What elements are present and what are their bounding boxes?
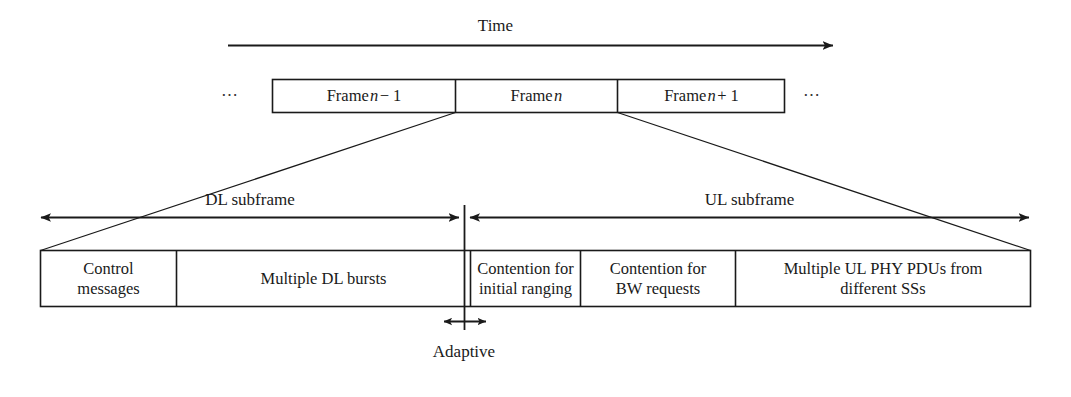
frame-cell-control-messages[interactable]: Control messages [41, 251, 176, 306]
ellipsis-right-icon: ⋯ [803, 84, 822, 105]
frame-cell-contention-bw-requests[interactable]: Contention for BW requests [581, 251, 735, 306]
frame-box-current[interactable]: Framen [456, 79, 618, 113]
frame-cell-control-messages-label: Control messages [77, 259, 139, 298]
time-axis-label: Time [0, 16, 1071, 36]
frame-box-next[interactable]: Framen+ 1 [618, 79, 785, 113]
diagram-canvas [0, 0, 1071, 397]
frame-structure-diagram: Time ⋯ ⋯ Framen− 1 Framen Framen+ 1 DL s… [0, 0, 1071, 397]
frame-cell-contention-initial-ranging[interactable]: Contention for initial ranging [471, 251, 580, 306]
frame-cell-multiple-ul-phy-pdus[interactable]: Multiple UL PHY PDUs from different SSs [736, 251, 1030, 306]
expansion-guide-lines [41, 113, 1031, 251]
ellipsis-left-icon: ⋯ [221, 84, 240, 105]
frame-cell-contention-initial-ranging-label: Contention for initial ranging [477, 259, 574, 298]
frame-cell-multiple-ul-phy-pdus-label: Multiple UL PHY PDUs from different SSs [784, 259, 983, 298]
frame-cell-contention-bw-requests-label: Contention for BW requests [610, 259, 707, 298]
frame-cell-multiple-dl-bursts-label: Multiple DL bursts [261, 269, 387, 288]
frame-box-previous-label: Framen− 1 [327, 86, 402, 106]
frame-box-current-label: Framen [510, 86, 563, 106]
frame-cell-multiple-dl-bursts[interactable]: Multiple DL bursts [177, 251, 470, 306]
frame-box-previous[interactable]: Framen− 1 [272, 79, 456, 113]
frame-box-next-label: Framen+ 1 [664, 86, 739, 106]
